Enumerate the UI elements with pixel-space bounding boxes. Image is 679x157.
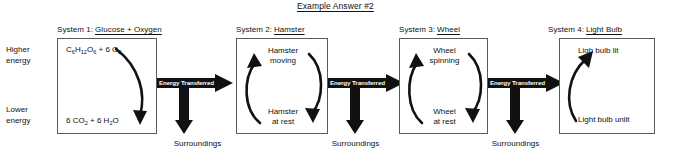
higher-energy-label: Higher energy [6,45,30,66]
system-1-box: C6H12O6 + 6 O2 6 CO2 + 6 H2O [57,38,157,134]
system-3-prefix: System 3: [399,25,435,34]
surroundings-label-3: Surroundings [463,139,568,148]
system-3-caption: System 3:Wheel [399,25,463,34]
system-4-box: Ligh bulb lit Light bulb unlit [559,38,655,134]
energy-transfer-1: Energy Transferred [157,78,237,135]
surroundings-label-2: Surroundings [303,139,408,148]
system-4-caption: System 4:Light Bulb [548,25,625,34]
higher-energy-line2: energy [6,56,30,67]
page-title: Example Answer #2 [297,1,374,11]
system-4-prefix: System 4: [548,25,584,34]
system-1-prefix: System 1: [57,25,93,34]
energy-transfer-3: Energy Transferred [488,78,568,135]
system-3-box: Wheel spinning Wheel at rest [399,38,488,134]
lower-energy-line2: energy [6,116,30,127]
system-4-name: Light Bulb [584,25,625,34]
lower-energy-line1: Lower [6,105,30,116]
energy-transfer-2: Energy Transferred [328,78,408,135]
system-2-name: Hamster [272,25,308,34]
system-3-cycle-arrow-icon [404,47,487,129]
system-2-box: Hamster moving Hamster at rest [236,38,328,134]
system-1-name: Glucose + Oxygen [93,25,165,34]
lower-energy-label: Lower energy [6,105,30,126]
system-2-prefix: System 2: [236,25,272,34]
system-1-caption: System 1:Glucose + Oxygen [57,25,165,34]
system-2-cycle-arrow-icon [241,47,327,129]
system-3-name: Wheel [435,25,463,34]
system-2-caption: System 2:Hamster [236,25,308,34]
surroundings-label-1: Surroundings [145,139,250,148]
system-4-upward-arrow-icon [564,47,604,127]
higher-energy-line1: Higher [6,45,30,56]
diagram-canvas: Example Answer #2 Higher energy Lower en… [0,0,679,157]
system-1-downward-arrow-icon [110,45,156,131]
